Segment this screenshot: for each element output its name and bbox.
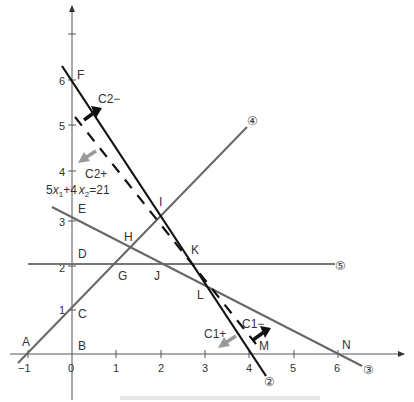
- point-h: H: [124, 230, 133, 244]
- point-a: A: [22, 335, 30, 349]
- point-e: E: [78, 202, 86, 216]
- point-d: D: [78, 247, 87, 261]
- point-i: I: [159, 195, 162, 209]
- svg-text:3: 3: [59, 216, 65, 228]
- line-4-label: ④: [247, 114, 258, 128]
- svg-text:4: 4: [246, 362, 252, 374]
- point-n: N: [342, 338, 351, 352]
- point-j: J: [154, 269, 160, 283]
- point-c: C: [78, 307, 87, 321]
- svg-text:5: 5: [290, 362, 296, 374]
- x-tick-labels: −1 0 1 2 3 4 5 6: [18, 362, 340, 374]
- lp-diagram: −1 0 1 2 3 4 5 6 1 2 3 4 5 6: [0, 0, 414, 402]
- svg-text:5: 5: [59, 120, 65, 132]
- line-2-label: ②: [264, 375, 275, 389]
- svg-text:2: 2: [158, 362, 164, 374]
- point-f: F: [77, 68, 84, 82]
- c1-minus-label: C1−: [242, 317, 264, 331]
- svg-text:6: 6: [334, 362, 340, 374]
- point-l: L: [197, 288, 204, 302]
- line-3-label: ③: [363, 363, 374, 377]
- c2-plus-arrow-icon: [78, 151, 96, 163]
- svg-text:6: 6: [59, 75, 65, 87]
- objective-line-dashed: [75, 117, 256, 344]
- svg-text:−1: −1: [18, 362, 31, 374]
- point-m: M: [259, 339, 269, 353]
- point-b: B: [78, 339, 86, 353]
- c2-minus-label: C2−: [98, 92, 120, 106]
- point-k: K: [191, 243, 199, 257]
- c2-minus-arrow-icon: [84, 106, 102, 120]
- objective-equation-label: 5x1+4x2=21: [46, 183, 110, 199]
- svg-text:4: 4: [59, 166, 65, 178]
- line-5-label: ⑤: [335, 259, 346, 273]
- svg-text:3: 3: [202, 362, 208, 374]
- figure-caption: [120, 396, 320, 400]
- svg-text:1: 1: [113, 362, 119, 374]
- c1-plus-label: C1+: [204, 327, 226, 341]
- svg-text:0: 0: [68, 362, 74, 374]
- c2-plus-label: C2+: [85, 167, 107, 181]
- point-g: G: [118, 269, 127, 283]
